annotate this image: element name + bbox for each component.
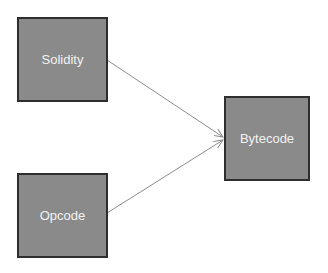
node-solidity: Solidity (17, 17, 108, 102)
arrow-opcode-to-bytecode (107, 140, 223, 213)
arrow-solidity-to-bytecode (107, 60, 223, 137)
node-opcode: Opcode (17, 173, 108, 258)
node-bytecode: Bytecode (224, 96, 310, 181)
node-label: Solidity (42, 52, 84, 67)
node-label: Opcode (40, 208, 86, 223)
node-label: Bytecode (240, 131, 294, 146)
